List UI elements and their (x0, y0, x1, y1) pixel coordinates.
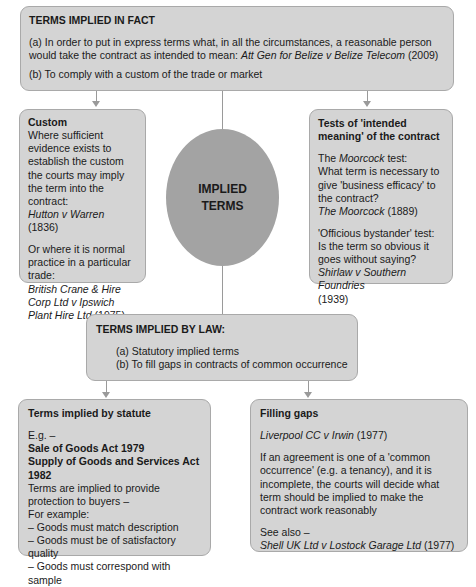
box-title: Filling gaps (260, 407, 458, 420)
case-name: Liverpool CC v Irwin (260, 429, 354, 441)
list-item: – Goods must be of satisfactory quality (28, 534, 201, 560)
tests-intended-meaning-box: Tests of 'intended meaning' of the contr… (309, 109, 453, 284)
arrow-down-icon (304, 392, 312, 398)
list-item: – Goods must correspond with sample (28, 560, 201, 586)
filling-gaps-box: Filling gaps Liverpool CC v Irwin (1977)… (250, 399, 468, 552)
terms-implied-in-fact-box: TERMS IMPLIED IN FACT (a) In order to pu… (20, 6, 454, 91)
box-title: Custom (28, 116, 137, 129)
connector-line (222, 90, 223, 130)
case-name: Shell UK Ltd v Lostock Garage Ltd (260, 539, 421, 551)
terms-implied-by-statute-box: Terms implied by statute E.g. – Sale of … (18, 399, 211, 556)
case-name: The Moorcock (318, 205, 385, 217)
case-name: Shirlaw v Southern Foundries (318, 266, 406, 291)
implied-terms-center-node: IMPLIEDTERMS (166, 129, 279, 266)
case-name: Hutton v Warren (28, 208, 104, 220)
point-b: (b) To comply with a custom of the trade… (29, 68, 445, 81)
list-item: – Goods must match description (28, 521, 201, 534)
arrow-down-icon (363, 101, 371, 107)
box-title: Terms implied by statute (28, 407, 201, 420)
custom-box: Custom Where sufficient evidence exists … (19, 109, 146, 283)
connector-line (222, 265, 223, 315)
box-title: TERMS IMPLIED BY LAW: (96, 323, 348, 336)
arrow-down-icon (92, 101, 100, 107)
case-name: Att Gen for Belize v Belize Telecom (241, 49, 405, 61)
arrow-down-icon (102, 392, 110, 398)
terms-implied-by-law-box: TERMS IMPLIED BY LAW: (a) Statutory impl… (86, 314, 358, 381)
point-a: (a) In order to put in express terms wha… (29, 36, 445, 62)
box-title: TERMS IMPLIED IN FACT (29, 14, 445, 27)
box-title: Tests of 'intended meaning' of the contr… (318, 117, 444, 143)
